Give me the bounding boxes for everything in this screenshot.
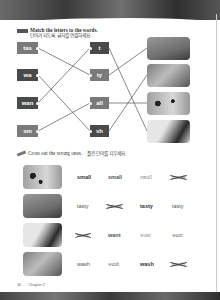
word-option[interactable]: tasty (77, 203, 89, 209)
section2-title-ko: 틀린 단어를 지우세요. (87, 151, 127, 156)
word-option[interactable]: want (108, 232, 121, 238)
letter-box-label: t (99, 45, 101, 51)
dog-with-flag-picture[interactable] (147, 37, 190, 60)
word-option[interactable]: want (140, 232, 151, 238)
bottom-decorative-banner (0, 292, 220, 300)
word-option-crossed[interactable]: takes (108, 203, 121, 209)
page-footer: 30 Chapter 2 (17, 283, 51, 287)
cat-washing-picture[interactable] (147, 120, 190, 143)
letter-box-label: sm (23, 128, 32, 134)
dalmatians-picture (23, 165, 62, 189)
letter-box-sh[interactable]: sh (90, 125, 109, 137)
connector-dot (89, 74, 92, 77)
letter-box-label: tas (23, 45, 32, 51)
connector-dot (36, 74, 39, 77)
dog-eating-picture (23, 252, 62, 276)
letter-box-label: all (96, 100, 103, 106)
connector-dot (89, 130, 92, 133)
connector-dot (36, 47, 39, 50)
connector-dot (36, 102, 39, 105)
word-option[interactable]: wash (140, 261, 154, 267)
word-option[interactable]: wash (77, 261, 90, 267)
letter-box-label: sh (96, 128, 103, 134)
word-option-crossed[interactable]: wash (172, 261, 185, 267)
chapter-label: Chapter 2 (28, 283, 45, 287)
connector-dot (36, 130, 39, 133)
letter-box-all[interactable]: all (90, 97, 109, 109)
connector-dot (89, 47, 92, 50)
letter-box-wan[interactable]: wan (17, 97, 38, 109)
section2-title-en: Cross out the wrong ones. (28, 150, 82, 156)
connector-dot (89, 102, 92, 105)
letter-box-t[interactable]: t (90, 42, 109, 54)
word-option[interactable]: small (140, 174, 152, 180)
letter-box-label: wan (22, 100, 34, 106)
letter-box-ty[interactable]: ty (90, 69, 109, 81)
pencil-icon (17, 151, 26, 157)
letter-box-wa[interactable]: wa (17, 69, 38, 81)
word-option[interactable]: tasty (140, 203, 153, 209)
dog-with-flag-picture (23, 194, 62, 218)
word-option-crossed[interactable]: maall (172, 174, 185, 180)
word-option[interactable]: small (77, 174, 91, 180)
word-option[interactable]: want (172, 232, 183, 238)
dog-eating-picture[interactable] (147, 64, 190, 87)
word-option[interactable]: wash (108, 261, 119, 267)
word-option-crossed[interactable]: want (77, 232, 89, 238)
dalmatians-picture[interactable] (147, 92, 190, 115)
letter-box-sm[interactable]: sm (17, 125, 38, 137)
word-option[interactable]: tasty (172, 203, 184, 209)
word-option[interactable]: small (108, 174, 122, 180)
letter-box-tas[interactable]: tas (17, 42, 38, 54)
page-number: 30 (17, 283, 21, 287)
section2-instruction: Cross out the wrong ones. 틀린 단어를 지우세요. (17, 150, 127, 157)
letter-box-label: wa (23, 72, 31, 78)
cat-washing-picture (23, 223, 62, 247)
letter-box-label: ty (97, 72, 102, 78)
